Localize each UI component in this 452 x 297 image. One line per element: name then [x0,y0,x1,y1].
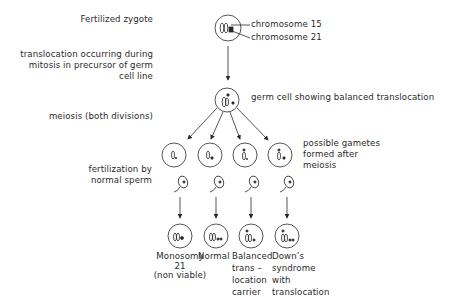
offspring-balanced [239,224,263,248]
zygote-cell [215,15,250,41]
stage-zygote-label: Fertilized zygote [81,14,153,25]
sperm-4 [280,175,295,192]
germ-cell [215,88,239,112]
gamete-4 [268,143,292,167]
stage-fertilization-label: fertilization by normal sperm [89,164,153,186]
stage-translocation-label: translocation occurring during mitosis i… [20,49,153,82]
gamete-3 [233,143,257,167]
sperm-2 [210,175,225,192]
outcome-normal-label: Normal [198,251,230,262]
gamete-2 [198,143,222,167]
sperm-3 [245,175,260,192]
offspring-downs [275,224,299,248]
gamete-1 [162,143,186,167]
chromosome-21-label: chromosome 21 [251,32,322,43]
outcome-downs-label: Down’s syndrome with translocation [272,251,330,297]
outcome-balanced-label: Balanced trans – location carrier [232,251,273,297]
sperm-1 [174,175,189,192]
offspring-normal [204,224,228,248]
stage-meiosis-label: meiosis (both divisions) [49,111,153,122]
germ-cell-label: germ cell showing balanced translocation [251,92,434,103]
gametes-label: possible gametes formed after meiosis [303,138,380,171]
chromosome-15-label: chromosome 15 [251,19,322,30]
offspring-monosomy [168,224,192,248]
